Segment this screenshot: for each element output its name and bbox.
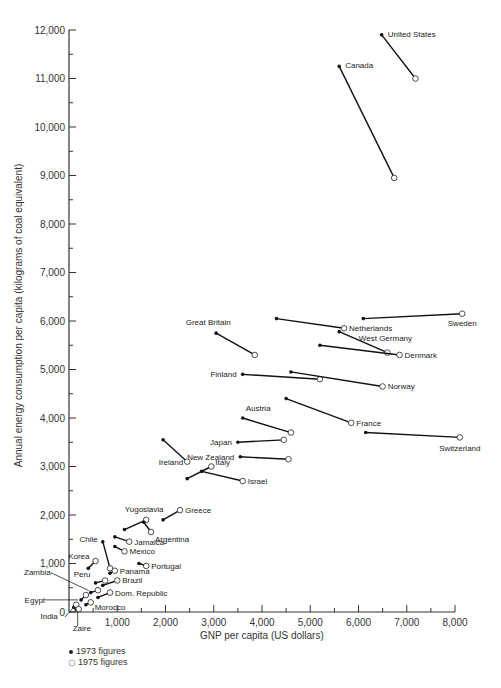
y-tick-label: 9,000 (40, 170, 65, 181)
marker-1975 (76, 606, 82, 612)
country-egypt: Egypt (25, 592, 89, 605)
marker-1975 (122, 549, 128, 555)
country-label: Austria (246, 404, 271, 413)
marker-1975 (107, 590, 113, 596)
country-label: Panama (120, 567, 150, 576)
x-tick-label: 1,000 (105, 617, 130, 628)
country-peru: Peru (74, 570, 108, 585)
country-label: Jamaica (134, 538, 164, 547)
country-norway: Norway (289, 370, 415, 391)
marker-1973 (241, 416, 245, 420)
country-label: Mexico (129, 547, 155, 556)
y-axis-label: Annual energy consumption per capita (ki… (13, 136, 24, 496)
marker-1975 (397, 352, 403, 358)
country-label: Great Britain (186, 318, 231, 327)
country-great-britain: Great Britain (186, 318, 258, 358)
x-axis-label: GNP per capita (US dollars) (200, 630, 324, 641)
country-label: Denmark (405, 351, 438, 360)
marker-1975 (281, 437, 287, 443)
country-label: Italy (215, 458, 230, 467)
legend: 1973 figures 1975 figures (68, 646, 128, 668)
country-canada: Canada (337, 61, 397, 180)
marker-1973 (94, 581, 98, 585)
y-tick-label: 12,000 (34, 25, 65, 36)
marker-1973 (113, 545, 117, 549)
country-dom-republic: Dom. Republic (96, 589, 167, 600)
country-korea: Korea (68, 552, 98, 570)
marker-1973 (101, 584, 105, 588)
marker-1973 (96, 596, 100, 600)
marker-1975 (413, 76, 419, 82)
country-label: West Germany (359, 334, 412, 343)
marker-1973 (380, 33, 384, 37)
marker-1975 (459, 311, 465, 317)
marker-1973 (123, 528, 127, 532)
y-tick-label: 10,000 (34, 122, 65, 133)
country-greece: Greece (161, 506, 211, 521)
marker-1973 (241, 373, 245, 377)
marker-1973 (79, 598, 83, 602)
marker-1975 (93, 558, 99, 564)
marker-1975 (252, 352, 258, 358)
marker-1975 (240, 478, 246, 484)
marker-1973 (108, 571, 112, 575)
marker-1975 (286, 456, 292, 462)
energy-gnp-chart: 01,0002,0003,0004,0005,0006,0007,0008,00… (0, 0, 501, 688)
y-tick-label: 5,000 (40, 364, 65, 375)
open-circle-icon (69, 660, 75, 666)
marker-1975 (288, 430, 294, 436)
country-label: Korea (68, 552, 90, 561)
marker-1975 (95, 587, 101, 593)
marker-1973 (142, 520, 146, 524)
x-tick-label: 5,000 (298, 617, 323, 628)
marker-1975 (380, 384, 386, 390)
country-label: Portugal (151, 562, 181, 571)
country-label: United States (388, 30, 436, 39)
marker-1975 (457, 435, 463, 441)
country-morocco: Morocco (84, 600, 126, 613)
country-label: Peru (74, 570, 91, 579)
country-france: France (284, 397, 381, 428)
country-label: Egypt (25, 596, 46, 605)
y-tick-label: 11,000 (35, 73, 65, 84)
marker-1975 (385, 350, 391, 356)
marker-1973 (137, 562, 141, 566)
marker-1975 (391, 175, 397, 181)
marker-1973 (113, 535, 117, 539)
country-label: France (356, 419, 381, 428)
marker-1975 (88, 600, 94, 606)
x-tick-label: 6,000 (346, 617, 371, 628)
country-label: Finland (210, 370, 236, 379)
country-netherlands: Netherlands (275, 317, 392, 333)
marker-1975 (209, 464, 215, 470)
marker-1975 (112, 568, 118, 574)
marker-1973 (337, 65, 341, 69)
marker-1973 (200, 470, 204, 474)
country-label: Canada (345, 61, 374, 70)
marker-1973 (289, 370, 293, 374)
legend-item-1973: 1973 figures (68, 646, 128, 657)
x-tick-label: 7,000 (394, 617, 419, 628)
marker-1973 (161, 518, 165, 522)
country-label: Chile (80, 535, 99, 544)
marker-1973 (284, 397, 288, 401)
country-united-states: United States (380, 30, 436, 81)
x-tick-label: 2,000 (153, 617, 178, 628)
country-yugoslavia: Yugoslavia (123, 505, 164, 531)
marker-1973 (89, 591, 93, 595)
marker-1975 (83, 592, 89, 598)
marker-1973 (362, 317, 366, 321)
marker-1973 (318, 343, 322, 347)
country-label: Morocco (95, 603, 126, 612)
marker-1975 (184, 459, 190, 465)
marker-1973 (84, 603, 88, 607)
country-label: Norway (388, 382, 415, 391)
marker-1975 (114, 578, 120, 584)
marker-1973 (214, 331, 218, 335)
marker-1973 (364, 431, 368, 435)
marker-1975 (102, 578, 108, 584)
country-ireland: Ireland (159, 438, 190, 467)
country-label: Zaire (73, 624, 92, 633)
country-japan: Japan (210, 437, 286, 447)
marker-1973 (275, 317, 279, 321)
